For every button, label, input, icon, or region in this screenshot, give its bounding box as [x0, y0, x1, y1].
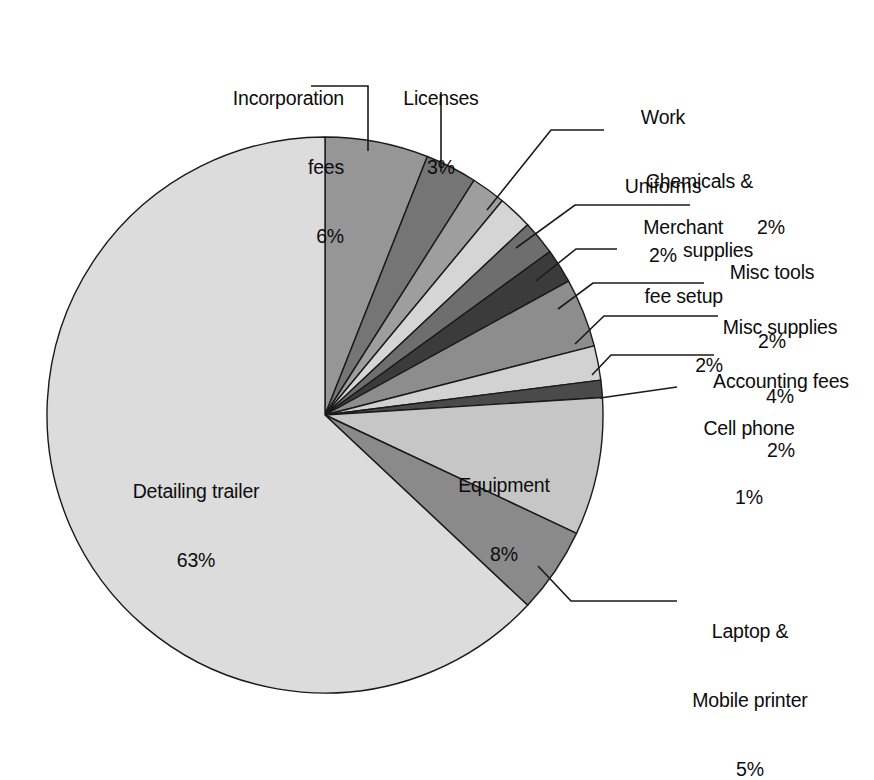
pie-label-equipment: Equipment 8%: [440, 428, 568, 612]
pie-label-detailing-trailer: Detailing trailer 63%: [110, 434, 282, 618]
pie-label-cell-phone: Cell phone 1%: [679, 371, 819, 555]
pie-label-licenses: Licenses 3%: [385, 41, 497, 225]
pie-label-laptop-mobile-printer: Laptop & Mobile printer 5%: [661, 574, 839, 780]
pie-label-incorporation-fees: Incorporation fees 6%: [196, 41, 344, 294]
